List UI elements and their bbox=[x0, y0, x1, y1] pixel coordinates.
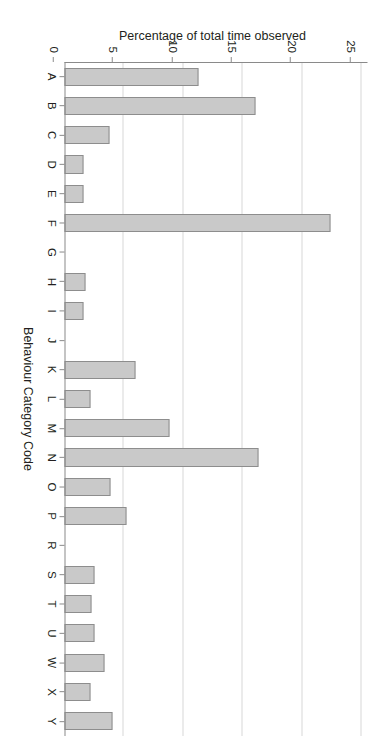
bar[interactable] bbox=[64, 97, 255, 115]
category-axis-tick: B bbox=[44, 102, 64, 110]
bar[interactable] bbox=[64, 361, 135, 379]
value-axis-tick-label: 25 bbox=[344, 40, 356, 57]
category-axis-tick-label: J bbox=[45, 338, 57, 344]
bar-slot bbox=[64, 179, 361, 208]
category-axis-tick-mark bbox=[59, 76, 64, 77]
bar[interactable] bbox=[64, 68, 198, 86]
category-axis-tick-label: C bbox=[45, 131, 57, 139]
bar-slot bbox=[64, 560, 361, 589]
value-axis-tick-label: 20 bbox=[284, 40, 296, 57]
bar[interactable] bbox=[64, 126, 109, 144]
bar[interactable] bbox=[64, 595, 91, 613]
category-axis-tick-label: F bbox=[45, 220, 57, 227]
bar-slot bbox=[64, 531, 361, 560]
bar-slot bbox=[64, 238, 361, 267]
category-axis-tick: C bbox=[44, 131, 64, 139]
category-axis: ABCDEFGHIJKLMNOPRSTUWXY bbox=[44, 62, 64, 736]
category-axis-tick-label: R bbox=[45, 541, 57, 549]
category-axis-tick-mark bbox=[59, 633, 64, 634]
category-axis-tick: M bbox=[44, 424, 64, 434]
bar-slot bbox=[64, 414, 361, 443]
category-axis-tick-label: N bbox=[45, 453, 57, 461]
bar-series bbox=[64, 62, 361, 736]
bar[interactable] bbox=[64, 419, 169, 437]
bar[interactable] bbox=[64, 478, 110, 496]
category-axis-tick-label: H bbox=[45, 278, 57, 286]
category-axis-tick-label: B bbox=[45, 102, 57, 110]
category-axis-tick-mark bbox=[59, 721, 64, 722]
category-axis-tick: O bbox=[44, 482, 64, 491]
category-axis-tick-label: S bbox=[45, 571, 57, 579]
category-axis-tick-mark bbox=[59, 252, 64, 253]
bar-slot bbox=[64, 267, 361, 296]
category-axis-tick-mark bbox=[59, 692, 64, 693]
category-axis-tick-mark bbox=[59, 574, 64, 575]
bar-chart-figure: Percentage of total time observed 051015… bbox=[0, 0, 381, 750]
value-axis-tick: 0 bbox=[47, 47, 59, 62]
bar[interactable] bbox=[64, 214, 330, 232]
bar[interactable] bbox=[64, 624, 94, 642]
plot-area bbox=[64, 62, 361, 736]
category-axis-tick-mark bbox=[59, 193, 64, 194]
category-axis-tick: G bbox=[44, 248, 64, 257]
bar-slot bbox=[64, 326, 361, 355]
category-axis-tick: P bbox=[44, 512, 64, 520]
bar-slot bbox=[64, 619, 361, 648]
category-axis-tick-mark bbox=[59, 311, 64, 312]
category-axis-tick-mark bbox=[59, 105, 64, 106]
category-axis-tick-label: O bbox=[45, 482, 57, 491]
bar[interactable] bbox=[64, 507, 126, 525]
bar[interactable] bbox=[64, 185, 83, 203]
category-axis-tick-label: Y bbox=[45, 718, 57, 726]
bar[interactable] bbox=[64, 302, 83, 320]
value-axis-tick-label: 5 bbox=[106, 47, 118, 57]
bar-slot bbox=[64, 150, 361, 179]
bar[interactable] bbox=[64, 155, 83, 173]
category-axis-tick-label: U bbox=[45, 629, 57, 637]
category-axis-tick-label: X bbox=[45, 688, 57, 696]
value-axis-tick: 5 bbox=[106, 47, 118, 62]
category-axis-title: Behaviour Category Code bbox=[20, 62, 34, 736]
bar[interactable] bbox=[64, 654, 104, 672]
bar-slot bbox=[64, 62, 361, 91]
category-axis-tick-mark bbox=[59, 340, 64, 341]
value-axis-tick: 20 bbox=[284, 40, 296, 62]
value-axis-tick: 25 bbox=[344, 40, 356, 62]
category-axis-tick-label: D bbox=[45, 160, 57, 168]
value-axis: Percentage of total time observed 051015… bbox=[64, 0, 361, 62]
category-axis-tick: A bbox=[44, 73, 64, 81]
bar-slot bbox=[64, 472, 361, 501]
category-axis-tick-mark bbox=[59, 223, 64, 224]
bar[interactable] bbox=[64, 448, 258, 466]
category-axis-tick-mark bbox=[59, 486, 64, 487]
category-axis-tick-label: K bbox=[45, 366, 57, 374]
bar-slot bbox=[64, 677, 361, 706]
category-axis-tick: E bbox=[44, 190, 64, 198]
bar[interactable] bbox=[64, 390, 90, 408]
category-axis-tick: U bbox=[44, 629, 64, 637]
category-axis-tick-mark bbox=[59, 545, 64, 546]
category-axis-tick: S bbox=[44, 571, 64, 579]
category-axis-tick-label: G bbox=[45, 248, 57, 257]
bar[interactable] bbox=[64, 683, 90, 701]
category-axis-tick-mark bbox=[59, 281, 64, 282]
bar[interactable] bbox=[64, 712, 112, 730]
bar-slot bbox=[64, 208, 361, 237]
category-axis-tick-label: M bbox=[45, 424, 57, 434]
category-axis-tick: W bbox=[44, 657, 64, 668]
category-axis-tick-mark bbox=[59, 604, 64, 605]
category-axis-tick: I bbox=[44, 309, 64, 312]
category-axis-tick-mark bbox=[59, 662, 64, 663]
category-axis-tick: T bbox=[44, 601, 64, 608]
bar[interactable] bbox=[64, 273, 85, 291]
bar-slot bbox=[64, 501, 361, 530]
value-axis-tick-label: 0 bbox=[47, 47, 59, 57]
value-axis-tick-label: 15 bbox=[225, 40, 237, 57]
rotated-figure-wrapper: Percentage of total time observed 051015… bbox=[0, 0, 381, 750]
bar-slot bbox=[64, 707, 361, 736]
category-axis-tick-mark bbox=[59, 135, 64, 136]
bar-slot bbox=[64, 384, 361, 413]
category-axis-tick: L bbox=[44, 396, 64, 402]
bar[interactable] bbox=[64, 566, 94, 584]
bar-slot bbox=[64, 589, 361, 618]
